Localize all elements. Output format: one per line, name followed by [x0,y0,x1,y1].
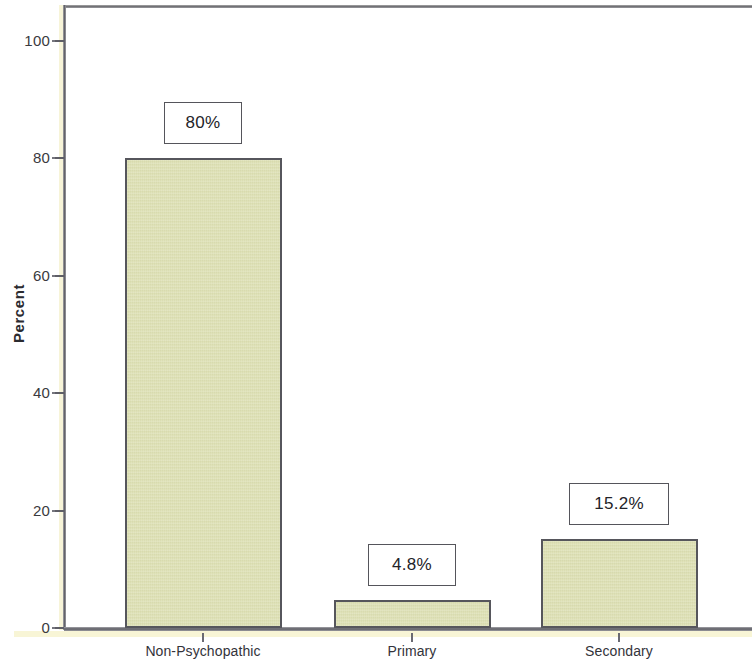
y-axis-tick [55,275,64,277]
y-axis-tick-dot [52,275,55,277]
y-axis-tick-label: 0 [4,619,50,636]
x-axis-category-label: Non-Psychopathic [93,643,313,659]
y-axis-title-text: Percent [11,283,28,342]
y-axis-tick-dot [52,157,55,159]
y-axis-tick [55,392,64,394]
bar [541,539,698,628]
y-axis-tick-dot [52,392,55,394]
bar-value-label: 15.2% [569,483,669,525]
x-axis-tick [202,633,204,642]
bar [125,158,282,628]
bar-value-label: 4.8% [368,544,456,586]
y-axis-tick [55,40,64,42]
y-axis-line [63,5,66,630]
x-axis-category-label: Primary [302,643,522,659]
x-axis-highlight [14,631,752,637]
y-axis-tick-dot [52,40,55,42]
y-axis-tick [55,510,64,512]
y-axis-tick-label: 60 [4,267,50,284]
bar-value-label: 80% [164,102,242,144]
x-axis-category-label: Secondary [509,643,729,659]
y-axis-tick [55,627,64,629]
x-axis-tick [618,633,620,642]
plot-top-border [64,5,752,8]
y-axis-tick-label: 40 [4,384,50,401]
y-axis-tick [55,157,64,159]
y-axis-tick-label: 100 [4,32,50,49]
y-axis-tick-label: 20 [4,502,50,519]
bar-chart: Percent 020406080100 80%4.8%15.2% Non-Ps… [0,0,752,660]
y-axis-tick-label: 80 [4,149,50,166]
x-axis-tick [411,633,413,642]
bar [334,600,491,628]
y-axis-tick-dot [52,627,55,629]
y-axis-tick-dot [52,510,55,512]
